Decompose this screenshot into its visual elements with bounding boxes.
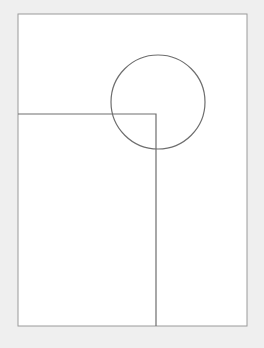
page-frame: [18, 14, 247, 326]
diagram-canvas: [0, 0, 264, 348]
